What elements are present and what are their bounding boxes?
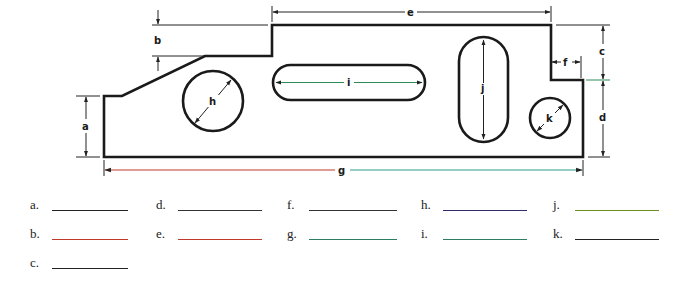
answer-letter: h.: [421, 198, 443, 212]
answer-sheet: a. b. c. d. e. f. g. h. i. j. k.: [0, 0, 685, 285]
answer-g[interactable]: g.: [287, 225, 397, 241]
answer-blank[interactable]: [178, 239, 262, 240]
answer-letter: i.: [421, 227, 443, 241]
answer-k[interactable]: k.: [553, 225, 659, 241]
answer-b[interactable]: b.: [30, 225, 128, 241]
answer-letter: k.: [553, 227, 575, 241]
answer-blank[interactable]: [575, 210, 659, 211]
answer-j[interactable]: j.: [553, 196, 659, 212]
answer-letter: c.: [30, 256, 52, 270]
answer-d[interactable]: d.: [156, 196, 262, 212]
answer-letter: g.: [287, 227, 309, 241]
answer-blank[interactable]: [52, 210, 128, 211]
answer-i[interactable]: i.: [421, 225, 527, 241]
answer-letter: b.: [30, 227, 52, 241]
answer-c[interactable]: c.: [30, 254, 128, 270]
answer-blank[interactable]: [309, 210, 397, 211]
answer-blank[interactable]: [575, 239, 659, 240]
answer-letter: d.: [156, 198, 178, 212]
answer-e[interactable]: e.: [156, 225, 262, 241]
answer-blank[interactable]: [309, 239, 397, 240]
answer-blank[interactable]: [178, 210, 262, 211]
answer-letter: e.: [156, 227, 178, 241]
answer-a[interactable]: a.: [30, 196, 128, 212]
answer-f[interactable]: f.: [287, 196, 397, 212]
answer-letter: f.: [287, 198, 309, 212]
answer-blank[interactable]: [443, 210, 527, 211]
answer-h[interactable]: h.: [421, 196, 527, 212]
answer-blank[interactable]: [443, 239, 527, 240]
answer-blank[interactable]: [52, 239, 128, 240]
answer-letter: j.: [553, 198, 575, 212]
answer-blank[interactable]: [52, 268, 128, 269]
answer-letter: a.: [30, 198, 52, 212]
